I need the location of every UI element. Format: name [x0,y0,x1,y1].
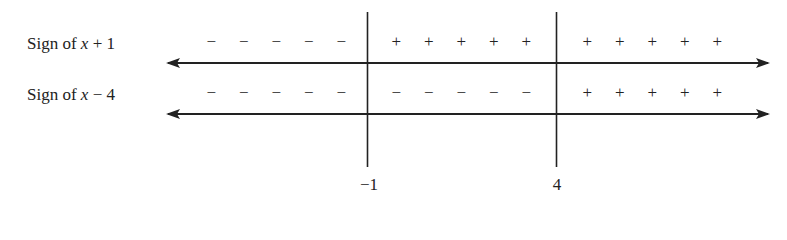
sign: − [260,32,293,52]
sign: + [510,32,543,52]
critical-point-label-4: 4 [553,175,562,195]
sign: + [571,83,604,103]
sign: + [571,32,604,52]
signs-row2-interval1: −−−−− [195,83,358,103]
critical-point-label-neg1: −1 [360,175,378,195]
signs-row1-interval2: +++++ [380,32,543,52]
sign: + [413,32,446,52]
sign: + [701,83,734,103]
sign: + [380,32,413,52]
sign: + [636,32,669,52]
signs-row2-interval2: −−−−− [380,83,543,103]
sign: + [478,32,511,52]
signs-row1-interval3: +++++ [571,32,734,52]
sign: − [260,83,293,103]
sign: − [380,83,413,103]
row-label-x-plus-1: Sign of x + 1 [27,34,115,54]
label-prefix: Sign of [27,34,81,53]
sign: − [195,32,228,52]
label-suffix: − 4 [88,85,115,104]
signs-row1-interval1: −−−−− [195,32,358,52]
sign: − [293,83,326,103]
sign: − [228,32,261,52]
sign: + [636,83,669,103]
sign: − [293,32,326,52]
sign: + [669,83,702,103]
sign: + [604,32,637,52]
row-label-x-minus-4: Sign of x − 4 [27,85,115,105]
sign: − [325,32,358,52]
sign: − [445,83,478,103]
label-suffix: + 1 [88,34,115,53]
sign: − [478,83,511,103]
sign: + [701,32,734,52]
sign: − [510,83,543,103]
signs-row2-interval3: +++++ [571,83,734,103]
sign: + [669,32,702,52]
sign: − [325,83,358,103]
sign: + [604,83,637,103]
label-prefix: Sign of [27,85,81,104]
sign: − [228,83,261,103]
sign: + [445,32,478,52]
sign: − [413,83,446,103]
sign: − [195,83,228,103]
